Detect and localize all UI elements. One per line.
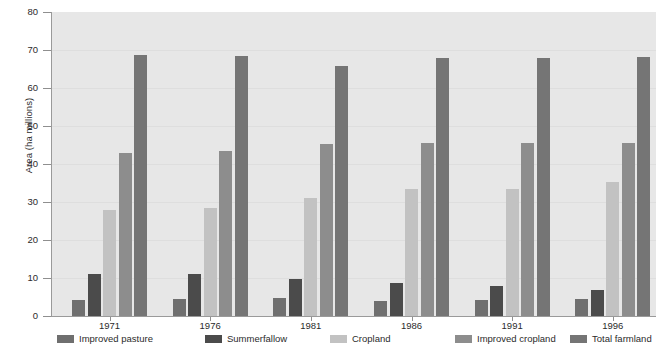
- y-axis-title: Area (ha millions): [23, 56, 34, 216]
- legend-item[interactable]: Summerfallow: [205, 334, 287, 344]
- y-tick-label: 10: [0, 272, 38, 283]
- y-tick-label: 50: [0, 120, 38, 131]
- bar: [72, 300, 85, 316]
- bar: [188, 274, 201, 316]
- bar: [537, 58, 550, 316]
- bar: [335, 66, 348, 316]
- y-tick-label: 30: [0, 196, 38, 207]
- bar: [103, 210, 116, 316]
- y-tick-label: 0: [0, 310, 38, 321]
- bar: [289, 279, 302, 316]
- bar: [421, 143, 434, 316]
- y-axis-line: [51, 12, 52, 317]
- bar: [436, 58, 449, 316]
- y-tick-label: 60: [0, 82, 38, 93]
- legend-swatch-icon: [205, 335, 222, 343]
- x-axis-line: [51, 316, 656, 317]
- bar-chart: Area (ha millions) 01020304050607080 197…: [0, 0, 663, 350]
- bar: [506, 189, 519, 316]
- y-tick-mark: [43, 50, 51, 51]
- bar: [575, 299, 588, 316]
- legend-label: Improved cropland: [477, 334, 556, 344]
- bar: [405, 189, 418, 316]
- y-tick-mark: [43, 126, 51, 127]
- bar: [475, 300, 488, 316]
- y-tick-mark: [43, 12, 51, 13]
- legend-item[interactable]: Total farmland: [570, 334, 652, 344]
- legend-swatch-icon: [330, 335, 347, 343]
- bar: [204, 208, 217, 316]
- plot-area: [52, 12, 656, 316]
- bar-group: [173, 12, 248, 316]
- bar: [490, 286, 503, 316]
- bar: [606, 182, 619, 316]
- bar: [88, 274, 101, 316]
- legend-swatch-icon: [57, 335, 74, 343]
- bar: [320, 144, 333, 316]
- bar: [219, 151, 232, 316]
- legend-label: Total farmland: [592, 334, 652, 344]
- bar: [390, 283, 403, 316]
- legend-item[interactable]: Improved pasture: [57, 334, 153, 344]
- legend-swatch-icon: [570, 335, 587, 343]
- bar-group: [273, 12, 348, 316]
- x-tick-label: 1971: [80, 320, 140, 331]
- y-tick-label: 80: [0, 6, 38, 17]
- bar: [273, 298, 286, 316]
- x-tick-label: 1986: [382, 320, 442, 331]
- bar: [521, 143, 534, 316]
- x-tick-label: 1996: [583, 320, 643, 331]
- y-tick-mark: [43, 240, 51, 241]
- legend-item[interactable]: Improved cropland: [455, 334, 556, 344]
- bar: [134, 55, 147, 316]
- legend-item[interactable]: Cropland: [330, 334, 391, 344]
- legend-label: Improved pasture: [79, 334, 153, 344]
- bar-group: [374, 12, 449, 316]
- y-tick-mark: [43, 278, 51, 279]
- bar: [173, 299, 186, 316]
- bar: [304, 198, 317, 316]
- bar: [637, 57, 650, 316]
- bar: [374, 301, 387, 316]
- x-tick-label: 1976: [180, 320, 240, 331]
- legend-label: Cropland: [352, 334, 391, 344]
- y-tick-mark: [43, 316, 51, 317]
- bar-group: [72, 12, 147, 316]
- y-tick-label: 40: [0, 158, 38, 169]
- legend-label: Summerfallow: [227, 334, 287, 344]
- bar: [591, 290, 604, 316]
- legend-swatch-icon: [455, 335, 472, 343]
- y-tick-label: 20: [0, 234, 38, 245]
- y-tick-mark: [43, 202, 51, 203]
- bar: [235, 56, 248, 316]
- bar-group: [575, 12, 650, 316]
- x-tick-label: 1981: [281, 320, 341, 331]
- chart-legend: Improved pastureSummerfallowCroplandImpr…: [0, 334, 663, 348]
- x-tick-label: 1991: [482, 320, 542, 331]
- bar: [622, 143, 635, 316]
- y-tick-mark: [43, 164, 51, 165]
- bar: [119, 153, 132, 316]
- y-tick-mark: [43, 88, 51, 89]
- y-tick-label: 70: [0, 44, 38, 55]
- bar-group: [475, 12, 550, 316]
